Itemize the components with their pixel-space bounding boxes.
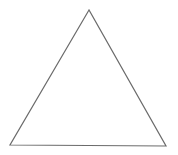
- triangle-shape: [10, 10, 166, 146]
- triangle-diagram: [0, 0, 178, 155]
- diagram-canvas: [0, 0, 178, 155]
